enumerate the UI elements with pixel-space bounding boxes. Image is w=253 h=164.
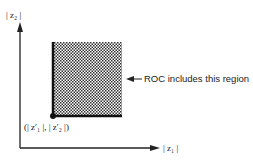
roc-region <box>50 42 122 119</box>
y-axis <box>17 22 23 148</box>
x-axis-arrow-icon <box>150 145 160 151</box>
arrow-left-icon <box>126 76 134 82</box>
x-axis-label: | z₁ | <box>163 144 178 153</box>
x-axis <box>20 145 160 151</box>
boundary-point <box>50 113 56 119</box>
roc-annotation: ROC includes this region <box>144 74 249 84</box>
point-label: (| z′₁ |, | z′₂ |) <box>24 123 69 132</box>
annotation-arrow <box>126 76 142 82</box>
y-axis-label: | z₂ | <box>6 11 21 20</box>
y-axis-arrow-icon <box>17 22 23 32</box>
